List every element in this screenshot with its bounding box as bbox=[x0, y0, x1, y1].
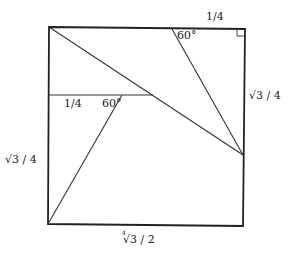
label-top-quarter: 1/4 bbox=[206, 10, 224, 23]
label-left-side: √3 / 4 bbox=[5, 153, 37, 166]
square-outline bbox=[48, 27, 245, 226]
lower-60-degree-line bbox=[48, 95, 122, 224]
label-top-angle: 60° bbox=[177, 29, 197, 42]
label-right-side: √3 / 4 bbox=[249, 89, 281, 102]
right-angle-marker bbox=[237, 29, 244, 36]
label-mid-quarter: 1/4 bbox=[64, 97, 82, 110]
geometry-diagram: 1/4 60° √3 / 4 1/4 60° √3 / 4 4 √3 / 2 bbox=[0, 0, 289, 253]
main-diagonal bbox=[49, 27, 243, 155]
label-bottom-side: √3 / 2 bbox=[123, 233, 155, 246]
label-mid-angle: 60° bbox=[102, 97, 122, 110]
upper-60-degree-line bbox=[172, 29, 243, 155]
